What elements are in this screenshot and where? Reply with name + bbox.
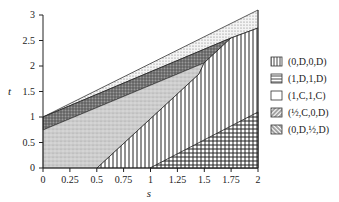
legend-item: (½,C,0,D): [271, 107, 329, 119]
x-tick-1: 0.25: [61, 174, 79, 185]
x-tick-0: 0: [41, 174, 46, 185]
legend-label: (1,C,1,C): [288, 90, 326, 102]
legend-item: (0,D,½,D): [271, 124, 329, 136]
x-tick-5: 1.25: [169, 174, 187, 185]
x-axis-label: s: [147, 187, 151, 199]
y-tick-4: 2: [30, 60, 35, 71]
legend-label: (½,C,0,D): [288, 107, 329, 119]
x-tick-4: 1: [148, 174, 153, 185]
legend-label: (0,D,0,D): [288, 56, 327, 68]
legend-label: (1,D,1,D): [288, 73, 327, 85]
legend-swatch-diagonal-left: [271, 125, 282, 134]
legend-swatch-vertical: [271, 57, 282, 66]
y-tick-2: 1: [30, 111, 35, 122]
legend-swatch-diagonal-right: [271, 108, 282, 117]
chart: 0 0.5 1 1.5 2 2.5 3 t 0 0.25 0.5 0.75 1 …: [0, 0, 339, 202]
legend-item: (0,D,0,D): [271, 56, 327, 68]
y-axis-label: t: [8, 85, 12, 97]
legend: (0,D,0,D) (1,D,1,D) (1,C,1,C) (½,C,0,D) …: [271, 56, 329, 136]
x-tick-3: 0.75: [115, 174, 133, 185]
plot-regions: [43, 10, 258, 168]
y-tick-1: 0.5: [23, 137, 36, 148]
legend-item: (1,D,1,D): [271, 73, 327, 85]
x-axis: 0 0.25 0.5 0.75 1 1.25 1.5 1.75 2 s: [41, 168, 261, 199]
y-tick-0: 0: [30, 162, 35, 173]
legend-item: (1,C,1,C): [271, 90, 326, 102]
x-tick-6: 1.5: [198, 174, 211, 185]
x-tick-2: 0.5: [91, 174, 104, 185]
legend-label: (0,D,½,D): [288, 124, 329, 136]
legend-swatch-horizontal: [271, 74, 282, 83]
x-tick-7: 1.75: [222, 174, 240, 185]
y-tick-3: 1.5: [23, 86, 36, 97]
y-axis: 0 0.5 1 1.5 2 2.5 3 t: [8, 9, 43, 173]
y-tick-5: 2.5: [23, 35, 36, 46]
y-tick-6: 3: [30, 9, 35, 20]
legend-swatch-blank: [271, 91, 282, 100]
x-tick-8: 2: [256, 174, 261, 185]
